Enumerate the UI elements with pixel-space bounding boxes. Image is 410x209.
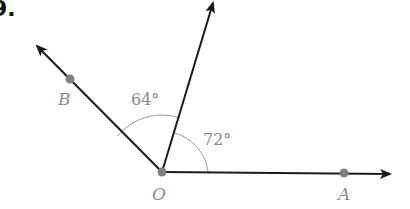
label-A: A <box>336 184 350 204</box>
diagram-canvas: O A B 64° 72° <box>0 0 410 209</box>
angle-label-64: 64° <box>131 90 159 109</box>
point-O <box>158 168 167 177</box>
angle-diagram: 9. O A B 64° 72° <box>0 0 410 209</box>
label-B: B <box>57 89 71 109</box>
ray-OB <box>37 46 162 172</box>
point-B <box>66 75 75 84</box>
question-number: 9. <box>0 0 16 21</box>
label-O: O <box>152 184 166 204</box>
ray-OA <box>162 172 390 174</box>
point-A <box>340 169 349 178</box>
angle-arc-64 <box>118 115 181 136</box>
angle-label-72: 72° <box>203 130 231 149</box>
